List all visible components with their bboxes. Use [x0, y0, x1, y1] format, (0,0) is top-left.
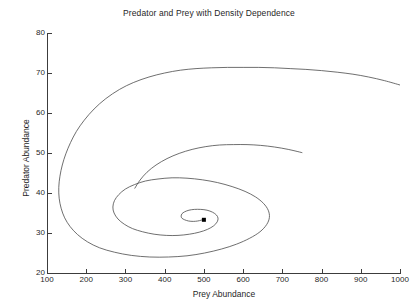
- x-axis-tick: [400, 269, 401, 273]
- x-axis-tick-label: 400: [158, 276, 171, 284]
- y-axis-tick-label: 70: [36, 69, 45, 77]
- x-axis-label: Prey Abundance: [47, 289, 401, 299]
- chart-figure: Predator and Prey with Density Dependenc…: [0, 0, 418, 307]
- x-axis-tick-label: 800: [315, 276, 328, 284]
- plot-area: [47, 33, 400, 273]
- trajectory-line: [59, 67, 400, 257]
- x-axis-tick-label: 1000: [391, 276, 409, 284]
- x-axis-tick-label: 200: [80, 276, 93, 284]
- equilibrium-marker: [202, 218, 206, 222]
- trajectory-line: [135, 145, 302, 189]
- y-axis-tick-label: 60: [36, 109, 45, 117]
- y-axis-tick-label: 50: [36, 149, 45, 157]
- y-axis-tick: [48, 273, 52, 274]
- x-axis-spine: [47, 273, 401, 274]
- y-axis-tick-label: 80: [36, 29, 45, 37]
- x-axis-tick-label: 300: [119, 276, 132, 284]
- y-axis-tick-label: 40: [36, 189, 45, 197]
- x-axis-tick-label: 500: [197, 276, 210, 284]
- x-axis-tick-label: 700: [276, 276, 289, 284]
- x-axis-tick-label: 100: [40, 276, 53, 284]
- chart-title: Predator and Prey with Density Dependenc…: [0, 8, 418, 18]
- x-axis-tick-label: 900: [354, 276, 367, 284]
- y-axis-tick-label: 30: [36, 229, 45, 237]
- y-axis-label: Predator Abundance: [21, 88, 31, 228]
- x-axis-tick-label: 600: [236, 276, 249, 284]
- trajectory-svg: [47, 33, 400, 273]
